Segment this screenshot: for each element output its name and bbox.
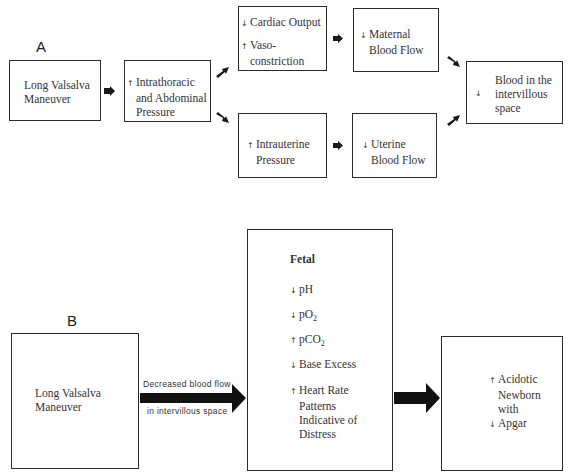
arrow-valsalva-to-pressure xyxy=(104,86,116,96)
down-arrow-icon: ↓ xyxy=(241,17,250,31)
a-valsalva-line2: Maneuver xyxy=(24,92,90,106)
fetal-item-pco2-text: pCO xyxy=(299,333,321,345)
a-pressure-line2: and Abdominal xyxy=(127,91,207,105)
arrow-intrauterine-to-uterine xyxy=(333,141,344,150)
down-arrow-icon: ↓ xyxy=(290,309,299,323)
a-valsalva-text: Long Valsalva Maneuver xyxy=(24,78,90,106)
b-valsalva-text: Long Valsalva Maneuver xyxy=(35,386,101,414)
heart-rate-line1: Heart Rate xyxy=(299,384,349,396)
a-intrauterine-text: ↑Intrauterine Pressure xyxy=(247,137,310,167)
down-arrow-icon: ↓ xyxy=(362,139,371,153)
arrow-cardiac-to-maternal xyxy=(333,34,344,43)
down-arrow-icon: ↓ xyxy=(475,87,484,101)
up-arrow-icon: ↑ xyxy=(290,385,299,399)
a-result-line1: Blood in the xyxy=(475,73,552,87)
fetal-item-pco2: ↑pCO2 xyxy=(290,332,325,351)
a-valsalva-line1: Long Valsalva xyxy=(24,78,90,92)
up-arrow-icon: ↑ xyxy=(247,139,256,153)
arrow-pressure-to-intrauterine xyxy=(216,112,230,124)
a-result-line3: space xyxy=(475,101,552,115)
b-fetal-title: Fetal xyxy=(290,252,315,266)
a-cardiac-line2: Vaso- xyxy=(250,39,276,51)
newborn-line4: Apgar xyxy=(498,417,527,429)
a-maternal-text: ↓Maternal Blood Flow xyxy=(360,27,424,57)
arrow-label-line2: in intervillous space xyxy=(147,404,227,418)
fetal-item-po2: ↓pO2 xyxy=(290,307,317,326)
a-cardiac-text: ↓Cardiac Output ↑Vaso- constriction xyxy=(241,15,321,68)
arrow-label-line1: Decreased blood flow xyxy=(143,377,231,391)
newborn-line3: with xyxy=(489,402,541,416)
arrow-uterine-to-result xyxy=(447,114,461,126)
panel-b-label: B xyxy=(67,312,77,329)
newborn-line2: Newborn xyxy=(489,388,541,402)
a-maternal-line2: Blood Flow xyxy=(360,43,424,57)
up-arrow-icon: ↑ xyxy=(290,334,299,348)
up-arrow-icon: ↑ xyxy=(489,374,498,388)
arrow-maternal-to-result xyxy=(447,56,461,68)
fetal-item-ph: ↓pH xyxy=(290,282,313,298)
up-arrow-icon: ↑ xyxy=(127,77,136,91)
fetal-item-po2-sub: 2 xyxy=(313,314,317,323)
a-maternal-line1: Maternal xyxy=(369,28,411,40)
fetal-item-base-excess: ↓Base Excess xyxy=(290,357,356,373)
a-cardiac-line1: Cardiac Output xyxy=(250,16,321,28)
a-pressure-text: ↑Intrathoracic and Abdominal Pressure xyxy=(127,75,207,119)
up-arrow-icon: ↑ xyxy=(241,40,250,54)
a-uterine-line1: Uterine xyxy=(371,138,405,150)
down-arrow-icon: ↓ xyxy=(360,29,369,43)
a-cardiac-line3: constriction xyxy=(241,54,321,68)
down-arrow-icon: ↓ xyxy=(290,359,299,373)
fetal-item-pco2-sub: 2 xyxy=(321,339,325,348)
a-pressure-line1: Intrathoracic xyxy=(136,76,195,88)
newborn-line1: Acidotic xyxy=(498,373,538,385)
fetal-item-heart-rate: ↑Heart Rate Patterns Indicative of Distr… xyxy=(290,383,357,441)
fetal-item-base-excess-text: Base Excess xyxy=(299,358,356,370)
a-intrauterine-line1: Intrauterine xyxy=(256,138,310,150)
fetal-item-ph-text: pH xyxy=(299,283,313,295)
b-valsalva-line2: Maneuver xyxy=(35,400,101,414)
a-pressure-line3: Pressure xyxy=(127,105,207,119)
down-arrow-icon: ↓ xyxy=(489,418,498,432)
arrow-fetal-to-newborn xyxy=(394,383,441,414)
b-valsalva-line1: Long Valsalva xyxy=(35,386,101,400)
fetal-title-text: Fetal xyxy=(290,253,315,265)
heart-rate-line2: Patterns xyxy=(290,399,357,413)
a-intrauterine-line2: Pressure xyxy=(247,153,310,167)
down-arrow-icon: ↓ xyxy=(290,284,299,298)
heart-rate-line3: Indicative of xyxy=(290,413,357,427)
arrow-pressure-to-cardiac xyxy=(216,66,230,78)
a-uterine-text: ↓Uterine Blood Flow xyxy=(362,137,426,167)
heart-rate-line4: Distress xyxy=(290,427,357,441)
a-result-text: ↓ Blood in the intervillous space xyxy=(475,73,552,115)
fetal-item-po2-text: pO xyxy=(299,308,313,320)
a-uterine-line2: Blood Flow xyxy=(362,153,426,167)
b-newborn-text: ↑Acidotic Newborn with ↓Apgar xyxy=(489,372,541,432)
panel-a-label: A xyxy=(36,38,46,55)
a-result-line2: intervillous xyxy=(475,87,552,101)
